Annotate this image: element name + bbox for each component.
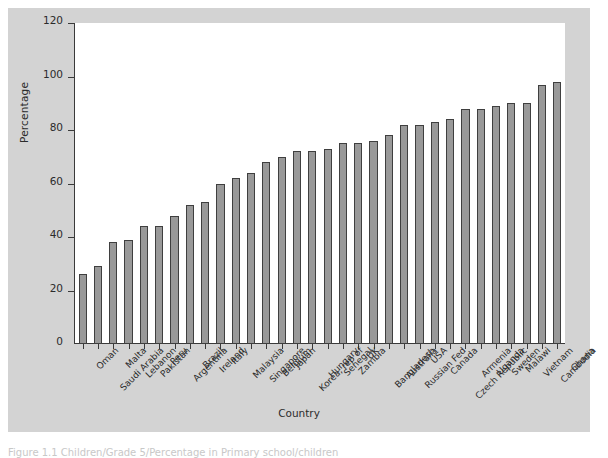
bar	[553, 82, 561, 344]
bar	[415, 125, 423, 344]
bar	[216, 184, 224, 345]
bar	[507, 103, 515, 344]
y-axis-tick-label: 20	[50, 283, 63, 294]
x-axis-tick-label: Oman	[95, 346, 121, 372]
bar	[124, 240, 132, 344]
bar	[446, 119, 454, 344]
bar	[201, 202, 209, 344]
bar	[492, 106, 500, 344]
figure-panel: Percentage 020406080100120 OmanSaudi Ara…	[8, 8, 590, 432]
x-axis-tick-label: Ghana	[570, 346, 597, 373]
bar	[278, 157, 286, 344]
y-axis-tick-label: 60	[50, 176, 63, 187]
bar	[262, 162, 270, 344]
figure-caption-text: Figure 1.1 Children/Grade 5/Percentage i…	[8, 448, 568, 458]
bar	[461, 109, 469, 344]
bar	[477, 109, 485, 344]
bar	[324, 149, 332, 344]
bar	[247, 173, 255, 344]
y-axis-tick-label: 0	[56, 336, 63, 347]
x-axis-tick-label: Italy	[230, 346, 250, 366]
bar	[293, 151, 301, 344]
x-axis-title: Country	[8, 407, 590, 419]
bar	[339, 143, 347, 344]
y-axis-tick-label: 40	[50, 229, 63, 240]
bar	[431, 122, 439, 344]
bar	[79, 274, 87, 344]
bar	[186, 205, 194, 344]
y-axis-tick-label: 100	[43, 69, 63, 80]
figure-caption: Figure 1.1 Children/Grade 5/Percentage i…	[8, 448, 568, 458]
y-axis: 020406080100120	[8, 8, 74, 344]
y-axis-tick-label: 120	[43, 15, 63, 26]
y-axis-tick-label: 80	[50, 122, 63, 133]
bar	[308, 151, 316, 344]
x-axis-labels: OmanSaudi ArabiaMaltaLebanonPakistanPeru…	[75, 346, 565, 410]
bar	[354, 143, 362, 344]
bar	[232, 178, 240, 344]
bar	[155, 226, 163, 344]
bar	[170, 216, 178, 344]
bar	[140, 226, 148, 344]
bar	[538, 85, 546, 344]
bar	[400, 125, 408, 344]
bar	[109, 242, 117, 344]
bar-series	[75, 23, 565, 344]
bar	[94, 266, 102, 344]
bar	[385, 135, 393, 344]
bar	[523, 103, 531, 344]
bar	[369, 141, 377, 344]
